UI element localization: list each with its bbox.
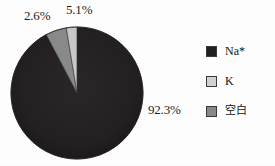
legend-swatch-blank: [206, 106, 217, 117]
legend-item-blank: 空白: [206, 104, 247, 118]
pie-label-blank: 5.1%: [66, 2, 92, 18]
legend-swatch-k: [206, 76, 217, 87]
legend-item-k: K: [206, 74, 234, 88]
legend-item-na: Na*: [206, 44, 245, 58]
pie-label-na: 92.3%: [148, 102, 181, 118]
pie-chart-area: 2.6% 5.1% 92.3%: [0, 0, 170, 166]
pie-chart-svg: [0, 0, 170, 166]
legend-label-na: Na*: [225, 45, 245, 57]
legend-swatch-na: [206, 46, 217, 57]
pie-chart-figure: 2.6% 5.1% 92.3% Na* K 空白: [0, 0, 275, 166]
pie-label-k: 2.6%: [24, 8, 50, 24]
chart-legend: Na* K 空白: [206, 44, 275, 144]
legend-label-blank: 空白: [225, 105, 247, 117]
legend-label-k: K: [225, 75, 234, 87]
